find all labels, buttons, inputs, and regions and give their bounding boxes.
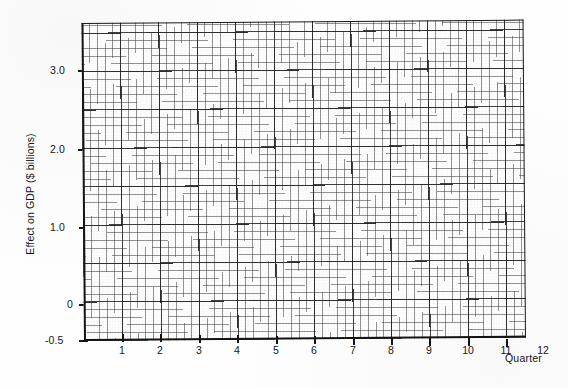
x-tick-label-1: 1 [119,344,125,356]
x-tick-mark-5 [276,336,278,344]
x-tick-mark-3 [199,335,201,343]
x-axis-label: Quarter [505,352,542,364]
x-tick-label-7: 7 [350,344,356,356]
chart-page: Effect on GDP ($ billions) 3.0 2.0 1.0 0… [0,0,568,388]
x-tick-label-10: 10 [462,344,474,356]
x-tick-label-3: 3 [196,344,202,356]
x-tick-mark-6 [314,336,316,344]
x-tick-mark-1 [122,334,124,342]
y-axis-label-host: Effect on GDP ($ billions) [22,30,46,360]
x-tick-label-9: 9 [426,344,432,356]
graph-paper-grid [82,20,526,341]
x-tick-mark-2 [160,334,162,342]
x-tick-label-6: 6 [311,344,317,356]
x-tick-label-4: 4 [234,344,240,356]
x-tick-label-8: 8 [388,344,394,356]
x-tick-mark-4 [237,335,239,343]
y-axis-label: Effect on GDP ($ billions) [24,34,36,354]
x-tick-label-2: 2 [157,344,163,356]
x-tick-label-5: 5 [273,344,279,356]
plot-area [82,20,526,341]
